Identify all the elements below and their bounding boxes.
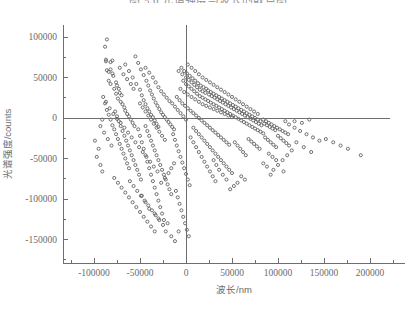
data-point [123, 106, 126, 109]
data-point [182, 115, 185, 118]
data-point [166, 183, 169, 186]
data-point [216, 109, 219, 112]
data-point [174, 189, 177, 192]
data-point [287, 144, 290, 147]
data-point [201, 103, 204, 106]
data-point [217, 133, 220, 136]
data-point [222, 162, 225, 165]
data-point [144, 103, 147, 106]
data-point [118, 66, 121, 69]
data-point [170, 235, 173, 238]
data-point [146, 129, 149, 132]
data-point [137, 61, 140, 64]
data-point [126, 144, 129, 147]
data-point [228, 168, 231, 171]
data-point [172, 128, 175, 131]
data-point [332, 141, 335, 144]
x-tick-label: 200000 [356, 268, 385, 278]
data-point [138, 173, 141, 176]
data-point [275, 159, 278, 162]
data-point [308, 118, 311, 121]
data-point [281, 159, 284, 162]
data-point [229, 188, 232, 191]
data-point [136, 168, 139, 171]
x-tick-label: 50000 [220, 268, 244, 278]
data-point [157, 199, 160, 202]
y-tick-label: 50000 [33, 73, 57, 83]
data-point [127, 167, 130, 170]
data-point [132, 87, 135, 90]
axis-labels-layer: -150000-100000-50000050000100000-100000-… [2, 32, 385, 295]
data-point [129, 82, 132, 85]
data-point [158, 108, 161, 111]
data-point [230, 95, 233, 98]
data-point [162, 219, 165, 222]
data-point [130, 136, 133, 139]
data-point [264, 136, 267, 139]
data-point [239, 147, 242, 150]
data-point [179, 155, 182, 158]
data-point [151, 76, 154, 79]
data-point [141, 150, 144, 153]
data-point [106, 138, 109, 141]
data-point [124, 157, 127, 160]
data-point [107, 79, 110, 82]
y-tick-label: -50000 [30, 154, 57, 164]
data-point [149, 89, 152, 92]
data-point [135, 206, 138, 209]
data-point [236, 144, 239, 147]
data-point [160, 90, 163, 93]
y-tick-label: 100000 [29, 32, 58, 42]
data-point [190, 81, 193, 84]
data-point [153, 186, 156, 189]
data-point [145, 79, 148, 82]
data-point [130, 154, 133, 157]
data-point [212, 108, 215, 111]
data-point [175, 95, 178, 98]
data-point [186, 107, 189, 110]
data-point [146, 220, 149, 223]
data-point [214, 152, 217, 155]
data-point [173, 240, 176, 243]
data-point [131, 76, 134, 79]
data-point [125, 139, 128, 142]
data-point [182, 79, 185, 82]
data-point [158, 130, 161, 133]
data-point [256, 112, 259, 115]
data-point [208, 146, 211, 149]
data-point [243, 178, 246, 181]
data-point [161, 134, 164, 137]
data-point [204, 91, 207, 94]
data-point [120, 147, 123, 150]
data-point [195, 146, 198, 149]
data-point [176, 108, 179, 111]
data-point [108, 107, 111, 110]
data-point [123, 126, 126, 129]
data-point [136, 189, 139, 192]
data-point [141, 106, 144, 109]
data-point [287, 123, 290, 126]
data-point [286, 154, 289, 157]
data-point [192, 112, 195, 115]
data-point [144, 66, 147, 69]
data-point [154, 81, 157, 84]
data-point [197, 73, 200, 76]
data-point [241, 150, 244, 153]
data-point [262, 132, 265, 135]
data-point [138, 134, 141, 137]
data-point [194, 69, 197, 72]
data-point [284, 120, 287, 123]
data-point [137, 128, 140, 131]
data-point [192, 126, 195, 129]
data-point [148, 110, 151, 113]
data-point [285, 142, 288, 145]
data-point [113, 128, 116, 131]
data-point [247, 138, 250, 141]
data-point [187, 235, 190, 238]
data-point [109, 82, 112, 85]
data-point [117, 87, 120, 90]
data-point [195, 86, 198, 89]
data-point [193, 90, 196, 93]
data-point [187, 78, 190, 81]
data-point [272, 143, 275, 146]
